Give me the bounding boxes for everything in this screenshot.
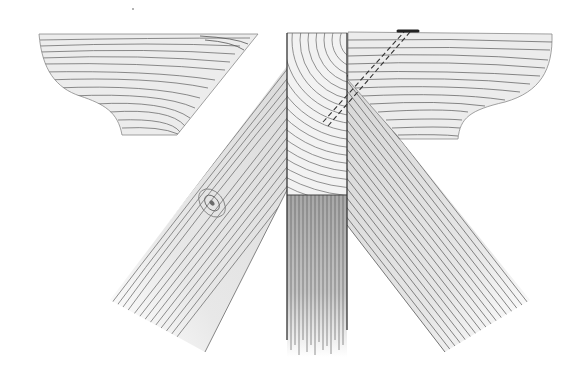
left-corbel [39,34,258,135]
paper-speck [132,8,134,10]
joint-drawing [0,0,586,372]
